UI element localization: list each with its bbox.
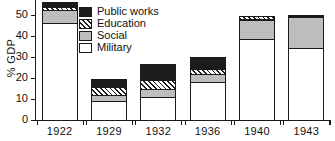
- legend-item-social[interactable]: Social: [79, 30, 191, 42]
- bar-segment-military: [140, 97, 176, 120]
- legend-label: Education: [97, 18, 146, 30]
- x-axis-label-1932: 1932: [133, 125, 183, 137]
- x-axis-label-1922: 1922: [35, 125, 85, 137]
- y-tick-mark: [31, 78, 36, 79]
- bar-1932[interactable]: [140, 64, 176, 120]
- y-tick-label: 10: [16, 92, 28, 105]
- bar-segment-public-works: [190, 57, 226, 69]
- x-axis-label-1943: 1943: [281, 125, 331, 137]
- y-tick-mark: [31, 15, 36, 16]
- bar-segment-public-works: [140, 64, 176, 80]
- bar-segment-education: [91, 87, 127, 94]
- legend: Public worksEducationSocialMilitary: [79, 6, 191, 54]
- legend-label: Social: [97, 30, 127, 42]
- legend-item-public[interactable]: Public works: [79, 6, 191, 18]
- legend-swatch-social-icon: [79, 31, 92, 41]
- bar-1929[interactable]: [91, 79, 127, 120]
- legend-label: Public works: [97, 6, 159, 18]
- bar-segment-military: [190, 82, 226, 120]
- bar-1940[interactable]: [239, 16, 275, 120]
- y-tick: 20: [31, 78, 36, 79]
- x-axis-label-1936: 1936: [183, 125, 233, 137]
- bar-segment-social: [288, 17, 324, 47]
- legend-swatch-military-icon: [79, 43, 92, 53]
- x-axis-line: [35, 120, 331, 121]
- bar-segment-social: [91, 95, 127, 101]
- bar-segment-education: [190, 69, 226, 74]
- bar-segment-military: [42, 23, 78, 120]
- y-tick-label: 0: [22, 113, 28, 126]
- bar-segment-education: [42, 7, 78, 10]
- y-tick-mark: [31, 120, 36, 121]
- bar-segment-education: [140, 80, 176, 88]
- y-tick-label: 20: [16, 71, 28, 84]
- bar-segment-education: [239, 16, 275, 20]
- bar-segment-public-works: [42, 2, 78, 6]
- bar-segment-social: [140, 89, 176, 97]
- bar-segment-social: [42, 10, 78, 24]
- bar-segment-social: [190, 74, 226, 82]
- x-axis-label-1929: 1929: [84, 125, 134, 137]
- legend-item-education[interactable]: Education: [79, 18, 191, 30]
- y-tick: 10: [31, 99, 36, 100]
- bar-segment-military: [91, 101, 127, 120]
- bar-chart: % GDP 01020304050 1922192919321936194019…: [0, 0, 335, 141]
- y-tick: 30: [31, 57, 36, 58]
- y-tick-mark: [31, 57, 36, 58]
- legend-swatch-education-icon: [79, 19, 92, 29]
- y-tick: 40: [31, 36, 36, 37]
- y-tick-mark: [31, 99, 36, 100]
- y-tick: 50: [31, 15, 36, 16]
- y-tick-label: 30: [16, 50, 28, 63]
- y-tick-mark: [31, 36, 36, 37]
- legend-label: Military: [97, 42, 132, 54]
- legend-swatch-public-icon: [79, 7, 92, 17]
- y-tick-label: 40: [16, 29, 28, 42]
- bar-segment-social: [239, 20, 275, 39]
- bar-segment-education: [288, 15, 324, 17]
- y-tick-label: 50: [16, 8, 28, 21]
- bar-1922[interactable]: [42, 2, 78, 120]
- legend-item-military[interactable]: Military: [79, 42, 191, 54]
- bar-segment-military: [239, 39, 275, 120]
- y-tick: 0: [31, 120, 36, 121]
- x-axis-label-1940: 1940: [232, 125, 282, 137]
- y-axis-line: [35, 0, 36, 121]
- bar-segment-public-works: [91, 79, 127, 87]
- bar-1943[interactable]: [288, 15, 324, 120]
- bar-segment-military: [288, 48, 324, 120]
- bar-1936[interactable]: [190, 57, 226, 120]
